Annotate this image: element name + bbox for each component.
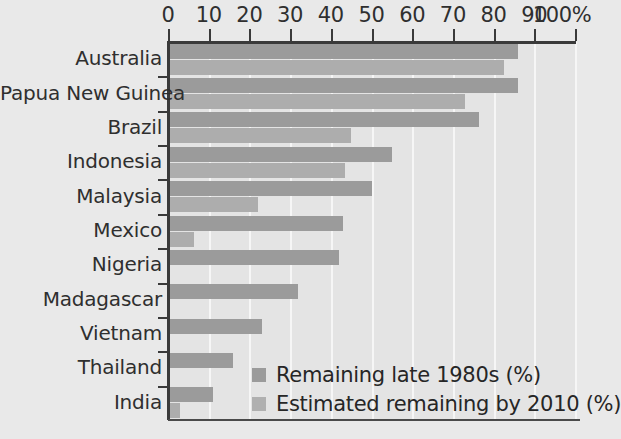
bar-series-1 — [168, 112, 479, 127]
x-tick-label: 20 — [236, 3, 262, 27]
x-tick-mark — [534, 29, 536, 41]
x-tick-label: 60 — [399, 3, 425, 27]
y-tick-mark — [158, 179, 168, 181]
y-axis-label: Malaysia — [0, 184, 162, 208]
x-tick-label: 0 — [161, 3, 174, 27]
legend-swatch-icon — [252, 397, 266, 411]
bar-series-1 — [168, 250, 339, 265]
bar-series-2 — [168, 232, 194, 247]
y-tick-mark — [158, 248, 168, 250]
bar-series-1 — [168, 387, 213, 402]
x-tick-mark — [249, 29, 251, 41]
x-tick-label: 10 — [196, 3, 222, 27]
y-axis-label: Indonesia — [0, 149, 162, 173]
y-tick-mark — [158, 111, 168, 113]
x-tick-mark — [575, 29, 577, 41]
x-tick-label: 30 — [277, 3, 303, 27]
legend-label: Remaining late 1980s (%) — [276, 363, 541, 387]
x-tick-mark — [453, 29, 455, 41]
bar-series-2 — [168, 94, 465, 109]
y-tick-mark — [158, 214, 168, 216]
legend-item: Estimated remaining by 2010 (%) — [252, 389, 621, 418]
x-tick-mark — [372, 29, 374, 41]
x-tick-mark — [494, 29, 496, 41]
y-tick-mark — [158, 386, 168, 388]
x-tick-label: 70 — [440, 3, 466, 27]
bar-series-1 — [168, 319, 262, 334]
x-tick-mark — [290, 29, 292, 41]
y-tick-mark — [158, 76, 168, 78]
y-axis-label: Papua New Guinea — [0, 81, 162, 105]
bar-series-1 — [168, 353, 233, 368]
bar-series-1 — [168, 78, 518, 93]
bottom-rule — [168, 419, 580, 421]
bar-series-2 — [168, 163, 345, 178]
bar-series-2 — [168, 197, 258, 212]
y-tick-mark — [158, 145, 168, 147]
y-axis-label: Vietnam — [0, 321, 162, 345]
bar-series-1 — [168, 147, 392, 162]
bar-series-1 — [168, 44, 518, 59]
x-tick-label: 80 — [481, 3, 507, 27]
bar-series-2 — [168, 128, 351, 143]
x-axis-line — [168, 41, 576, 44]
x-tick-label: 50 — [358, 3, 384, 27]
legend-swatch-icon — [252, 368, 266, 382]
y-tick-mark — [158, 317, 168, 319]
y-axis-label: India — [0, 390, 162, 414]
bar-series-1 — [168, 284, 298, 299]
y-axis-label: Mexico — [0, 218, 162, 242]
x-tick-label: 40 — [318, 3, 344, 27]
bar-series-2 — [168, 60, 504, 75]
chart-legend: Remaining late 1980s (%) Estimated remai… — [252, 360, 621, 418]
legend-item: Remaining late 1980s (%) — [252, 360, 621, 389]
y-tick-mark — [158, 283, 168, 285]
x-tick-mark — [412, 29, 414, 41]
y-axis-label: Thailand — [0, 355, 162, 379]
x-tick-mark — [331, 29, 333, 41]
bar-series-1 — [168, 216, 343, 231]
y-axis-label: Australia — [0, 46, 162, 70]
bar-series-1 — [168, 181, 372, 196]
y-axis-label: Brazil — [0, 115, 162, 139]
x-tick-mark — [168, 29, 170, 41]
x-tick-label: 100% — [533, 3, 592, 27]
x-tick-mark — [209, 29, 211, 41]
legend-label: Estimated remaining by 2010 (%) — [276, 392, 621, 416]
y-axis-label: Nigeria — [0, 252, 162, 276]
y-axis-label: Madagascar — [0, 287, 162, 311]
y-tick-mark — [158, 351, 168, 353]
